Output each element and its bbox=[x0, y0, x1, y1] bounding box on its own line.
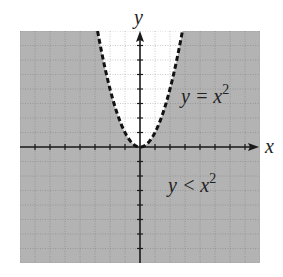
x-axis-label: x bbox=[264, 135, 274, 157]
boundary-equation-label: y = x2 bbox=[179, 82, 229, 108]
y-axis-label: y bbox=[132, 6, 143, 29]
graph: y x y = x2 y < x2 bbox=[0, 0, 283, 277]
region-inequality-label: y < x2 bbox=[166, 171, 216, 197]
